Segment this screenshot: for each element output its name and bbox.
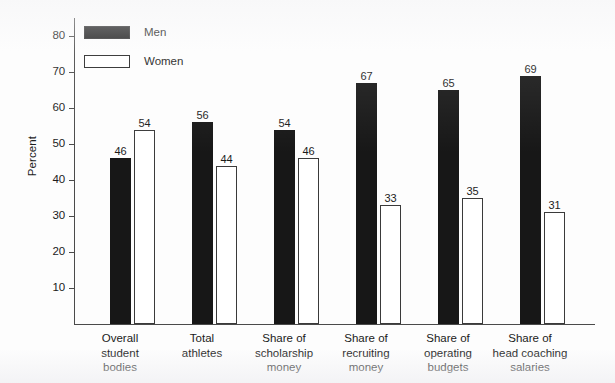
x-axis-line [74,324,595,325]
y-axis-tick-label: 10 [39,281,65,293]
bar-value-label: 44 [221,153,233,165]
bar-value-label: 54 [279,117,291,129]
y-axis-tick-label: 20 [39,245,65,257]
category-label-line: bodies [70,360,170,375]
bar-value-label: 46 [115,145,127,157]
bar-value-label: 65 [443,77,455,89]
x-axis-category-label: Share ofhead coachingsalaries [480,331,580,375]
y-axis-tick-label: 50 [39,137,65,149]
legend-label-women: Women [144,55,183,67]
legend-item-women: Women [84,50,183,72]
y-axis-title: Percent [26,116,38,196]
bar-men[interactable]: 69 [520,76,541,324]
legend-label-men: Men [144,26,166,38]
bar-value-label: 33 [385,192,397,204]
bar-group: 5446 [260,18,334,324]
y-axis-tick-label: 80 [39,29,65,41]
category-label-line: head coaching [480,346,580,361]
bar-chart: 1020304050607080 Percent Men Women 46545… [0,0,615,383]
bar-group: 6535 [424,18,498,324]
bar-women[interactable]: 35 [462,198,483,324]
y-axis-tick-label: 30 [39,209,65,221]
bar-value-label: 54 [139,117,151,129]
bar-women[interactable]: 33 [380,205,401,324]
bar-group: 6931 [506,18,580,324]
category-label-line: Share of [480,331,580,346]
bar-value-label: 56 [197,109,209,121]
bar-group: 6733 [342,18,416,324]
bar-value-label: 69 [525,63,537,75]
bar-women[interactable]: 44 [216,166,237,324]
legend-swatch-men-icon [84,26,130,39]
bar-value-label: 31 [549,199,561,211]
bar-value-label: 35 [467,185,479,197]
legend-swatch-women-icon [84,55,130,68]
bar-men[interactable]: 46 [110,158,131,324]
chart-legend: Men Women [84,21,183,79]
bar-men[interactable]: 54 [274,130,295,324]
bar-men[interactable]: 56 [192,122,213,324]
bar-men[interactable]: 65 [438,90,459,324]
bar-women[interactable]: 46 [298,158,319,324]
bar-men[interactable]: 67 [356,83,377,324]
bar-women[interactable]: 31 [544,212,565,324]
bar-value-label: 67 [361,70,373,82]
category-label-line: salaries [480,360,580,375]
legend-item-men: Men [84,21,183,43]
y-axis-tick-label: 70 [39,65,65,77]
y-axis-tick-label: 40 [39,173,65,185]
bar-group: 5644 [178,18,252,324]
x-axis-category-labels: OverallstudentbodiesTotalathletesShare o… [74,331,595,377]
bar-value-label: 46 [303,145,315,157]
bar-women[interactable]: 54 [134,130,155,324]
source-caption [24,374,594,383]
y-axis-tick-label: 60 [39,101,65,113]
